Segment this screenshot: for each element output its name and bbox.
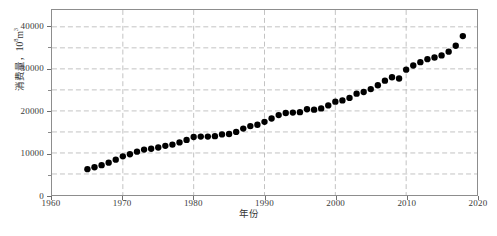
data-point (169, 141, 175, 147)
data-point (453, 43, 459, 49)
y-axis-tick-label: 20000 (0, 107, 44, 116)
data-point (91, 164, 97, 170)
data-point (254, 122, 260, 128)
plot-area (51, 9, 478, 196)
data-point (141, 146, 147, 152)
y-axis-tick (47, 154, 51, 155)
x-axis-tick-label: 1960 (42, 198, 61, 208)
data-point (304, 106, 310, 112)
y-axis-label-exponent: 8 (12, 39, 19, 42)
y-axis-minor-tick (48, 47, 51, 48)
data-point (268, 115, 274, 121)
x-axis-tick-label: 1970 (113, 198, 132, 208)
data-point (155, 144, 161, 150)
y-axis-tick (47, 69, 51, 70)
data-point (360, 89, 366, 95)
y-axis-tick-label: 30000 (0, 64, 44, 73)
data-point (346, 95, 352, 101)
y-axis-minor-tick (48, 175, 51, 176)
data-point (290, 109, 296, 115)
data-point (438, 52, 444, 58)
x-axis-tick-label: 1990 (255, 198, 274, 208)
data-point (311, 106, 317, 112)
data-point (261, 119, 267, 125)
data-point (417, 59, 423, 65)
x-axis-tick-label: 2020 (469, 198, 488, 208)
data-point (382, 77, 388, 83)
y-axis-tick (47, 111, 51, 112)
x-axis-tick-label: 2000 (326, 198, 345, 208)
data-point (233, 129, 239, 135)
data-point (297, 109, 303, 115)
data-point (190, 134, 196, 140)
data-point (460, 33, 466, 39)
y-axis-tick-label: 10000 (0, 149, 44, 158)
data-point (389, 74, 395, 80)
data-point (183, 137, 189, 143)
x-axis-label: 年份 (0, 209, 497, 220)
data-point (375, 82, 381, 88)
data-point (219, 131, 225, 137)
data-point (339, 97, 345, 103)
y-axis-tick-label: 0 (0, 192, 44, 201)
y-axis-tick-label: 40000 (0, 22, 44, 31)
data-point (403, 67, 409, 73)
data-point (247, 123, 253, 129)
data-points-layer (52, 10, 477, 195)
y-axis-minor-tick (48, 90, 51, 91)
figure-container: 消费量，108m3 010000200003000040000196019701… (0, 0, 497, 236)
data-point (275, 112, 281, 118)
x-axis-tick-label: 1980 (184, 198, 203, 208)
y-axis-label-unit: m (15, 31, 25, 38)
data-point (113, 157, 119, 163)
data-point (84, 166, 90, 172)
data-point (212, 133, 218, 139)
data-point (127, 151, 133, 157)
data-point (332, 98, 338, 104)
data-point (353, 91, 359, 97)
data-point (445, 48, 451, 54)
data-point (105, 159, 111, 165)
y-axis-minor-tick (48, 132, 51, 133)
data-point (134, 149, 140, 155)
y-axis-tick (47, 26, 51, 27)
data-point (148, 146, 154, 152)
data-point (240, 125, 246, 131)
data-point (120, 153, 126, 159)
data-point (176, 139, 182, 145)
data-point (424, 56, 430, 62)
data-point (410, 62, 416, 68)
data-point (431, 54, 437, 60)
data-point (162, 143, 168, 149)
data-point (396, 75, 402, 81)
data-point (205, 133, 211, 139)
data-point (226, 131, 232, 137)
data-point (368, 86, 374, 92)
x-axis-tick-label: 2010 (397, 198, 416, 208)
data-point (198, 133, 204, 139)
data-point (325, 102, 331, 108)
data-point (283, 110, 289, 116)
data-point (98, 162, 104, 168)
data-point (318, 105, 324, 111)
